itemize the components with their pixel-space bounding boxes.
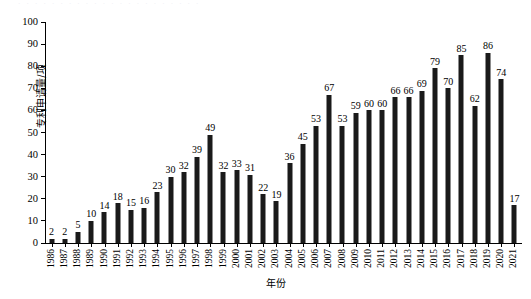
x-axis-tick-2018 xyxy=(475,243,476,247)
bar-group: 16 xyxy=(138,22,151,243)
bar-group: 60 xyxy=(376,22,389,243)
bar-group: 69 xyxy=(415,22,428,243)
x-tick-label-2005: 2005 xyxy=(297,249,310,268)
bar-value-label: 14 xyxy=(99,200,109,211)
bar xyxy=(446,88,451,243)
x-tick-label-1989: 1989 xyxy=(85,249,98,268)
x-tick-label-1991: 1991 xyxy=(112,249,125,268)
bar xyxy=(208,135,213,243)
x-axis-tick-2004 xyxy=(290,243,291,247)
x-axis-tick-1988 xyxy=(78,243,79,247)
bar xyxy=(115,203,120,243)
y-tick-label: 20 xyxy=(28,192,39,205)
x-tick-label-1992: 1992 xyxy=(125,249,138,268)
bar-group: 39 xyxy=(190,22,203,243)
x-axis-tick-2009 xyxy=(356,243,357,247)
x-tick-label-2011: 2011 xyxy=(376,249,389,268)
bar xyxy=(499,79,504,243)
bar xyxy=(406,97,411,243)
x-axis-tick-2005 xyxy=(303,243,304,247)
bar xyxy=(459,55,464,243)
x-axis-tick-2011 xyxy=(382,243,383,247)
bar xyxy=(102,212,107,243)
bar-value-label: 31 xyxy=(245,162,255,173)
x-axis-tick-2010 xyxy=(369,243,370,247)
bar-group: 86 xyxy=(481,22,494,243)
x-axis-tick-2007 xyxy=(329,243,330,247)
y-tick-label: 40 xyxy=(28,148,39,161)
bar xyxy=(472,106,477,243)
x-tick-label-2017: 2017 xyxy=(456,249,469,268)
patent-application-bar-chart: · · · · · · · · · · · · · · · · · · · · … xyxy=(0,0,531,299)
x-axis-tick-2006 xyxy=(316,243,317,247)
x-axis-tick-2000 xyxy=(237,243,238,247)
bar xyxy=(76,232,81,243)
bar xyxy=(393,97,398,243)
bar xyxy=(340,126,345,243)
y-tick-label: 80 xyxy=(28,59,39,72)
bar-group: 14 xyxy=(98,22,111,243)
x-tick-label-2020: 2020 xyxy=(495,249,508,268)
x-tick-label-2015: 2015 xyxy=(429,249,442,268)
x-tick-label-1995: 1995 xyxy=(165,249,178,268)
x-axis-tick-2021 xyxy=(514,243,515,247)
x-tick-label-2001: 2001 xyxy=(244,249,257,268)
bar-value-label: 70 xyxy=(443,76,453,87)
bar-group: 49 xyxy=(204,22,217,243)
bar xyxy=(314,126,319,243)
bar-value-label: 79 xyxy=(430,56,440,67)
bar-value-label: 59 xyxy=(351,100,361,111)
bar-group: 85 xyxy=(455,22,468,243)
bar-group: 22 xyxy=(257,22,270,243)
x-tick-label-2004: 2004 xyxy=(284,249,297,268)
bar xyxy=(261,194,266,243)
x-tick-label-2009: 2009 xyxy=(350,249,363,268)
bar-value-label: 30 xyxy=(166,164,176,175)
bar-group: 53 xyxy=(336,22,349,243)
x-axis-tick-2014 xyxy=(422,243,423,247)
x-axis-tick-2001 xyxy=(250,243,251,247)
x-axis-tick-1990 xyxy=(105,243,106,247)
x-tick-label-1993: 1993 xyxy=(138,249,151,268)
bar-value-label: 17 xyxy=(509,193,519,204)
bar-group: 32 xyxy=(217,22,230,243)
bar xyxy=(366,110,371,243)
x-axis-tick-2013 xyxy=(409,243,410,247)
bar-value-label: 69 xyxy=(417,78,427,89)
bar xyxy=(142,208,147,243)
bar-group: 66 xyxy=(389,22,402,243)
bar-group: 70 xyxy=(442,22,455,243)
x-axis-tick-1994 xyxy=(157,243,158,247)
x-tick-label-2013: 2013 xyxy=(403,249,416,268)
bar-value-label: 2 xyxy=(49,226,54,237)
bar-group: 79 xyxy=(428,22,441,243)
x-axis-tick-2012 xyxy=(395,243,396,247)
bar-group: 10 xyxy=(85,22,98,243)
bar-value-label: 32 xyxy=(179,160,189,171)
x-axis-tick-2019 xyxy=(488,243,489,247)
bar-value-label: 39 xyxy=(192,144,202,155)
x-axis-tick-1995 xyxy=(171,243,172,247)
bar-group: 18 xyxy=(111,22,124,243)
bar xyxy=(287,163,292,243)
bar xyxy=(155,192,160,243)
y-tick-label: 50 xyxy=(28,126,39,139)
y-tick-label: 100 xyxy=(22,15,38,28)
bar-value-label: 2 xyxy=(62,226,67,237)
x-tick-label-2014: 2014 xyxy=(416,249,429,268)
bar xyxy=(221,172,226,243)
x-tick-label-2008: 2008 xyxy=(337,249,350,268)
x-axis-tick-1991 xyxy=(118,243,119,247)
x-tick-label-1998: 1998 xyxy=(204,249,217,268)
bar-value-label: 60 xyxy=(364,98,374,109)
bar-group: 2 xyxy=(58,22,71,243)
bar-group: 62 xyxy=(468,22,481,243)
x-axis-tick-1996 xyxy=(184,243,185,247)
x-tick-label-2019: 2019 xyxy=(482,249,495,268)
x-tick-label-2000: 2000 xyxy=(231,249,244,268)
bar-group: 67 xyxy=(323,22,336,243)
bar-value-label: 15 xyxy=(126,197,136,208)
x-tick-label-2010: 2010 xyxy=(363,249,376,268)
x-axis-tick-1986 xyxy=(52,243,53,247)
x-tick-label-1996: 1996 xyxy=(178,249,191,268)
